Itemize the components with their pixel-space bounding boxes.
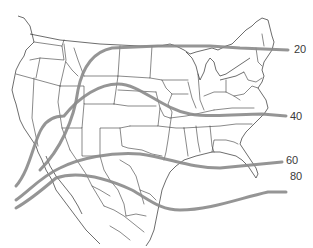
isoline-label-40: 40 — [290, 111, 302, 122]
coastline — [12, 16, 274, 246]
isoline-80 — [16, 175, 286, 210]
isoline-label-60: 60 — [286, 155, 298, 166]
isoline-label-80: 80 — [290, 171, 302, 182]
us-map — [0, 0, 313, 248]
isoline-label-20: 20 — [294, 44, 306, 55]
isolines — [16, 46, 288, 210]
state-borders — [16, 34, 264, 240]
